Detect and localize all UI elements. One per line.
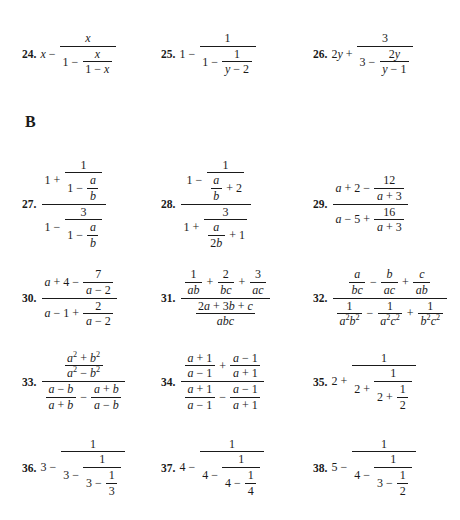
numeral: 1 [238, 453, 244, 466]
expr-group: b [213, 190, 219, 203]
operator: − [193, 399, 206, 412]
fraction-denominator: 1−1y−2 [200, 47, 256, 76]
power-term: b2 [90, 367, 100, 380]
fraction-numerator: a2+b2a2−b2 [61, 352, 107, 381]
exercise-expression: abc−bac+cab1a2b2−1a2c2+1b2c2 [331, 268, 448, 327]
operator: + [100, 383, 113, 396]
fraction: a+1a−1 [185, 352, 215, 380]
numeral: 2 [243, 63, 249, 76]
operator: + [50, 174, 63, 187]
operator: + [77, 352, 90, 365]
expr-group: abc−bac+cab [348, 268, 432, 296]
operator: − [185, 48, 198, 61]
fraction-numerator: 3 [220, 206, 231, 220]
power-term: c2 [431, 315, 440, 328]
fraction-numerator: 1 [385, 300, 396, 314]
expr-group: 2y [389, 48, 400, 61]
fraction-denominator: 3 [106, 484, 117, 498]
expr-group: a+b [94, 383, 119, 396]
numeral: 2 [400, 399, 406, 412]
fraction-numerator: a [87, 221, 98, 235]
exercise-row: 30.a+4−7a−2a−1+2a−231.1ab+2bc+3ac2a+3b+c… [0, 258, 460, 338]
numeral: 3 [223, 206, 229, 219]
exercise-number: 30. [22, 292, 36, 304]
variable: b [113, 399, 119, 412]
fraction-numerator: 3 [379, 32, 390, 46]
expr-group: a [213, 221, 219, 234]
expr-group: 1−1y−2 [202, 48, 253, 76]
exercise-number: 36. [22, 462, 36, 474]
fraction: 12+12+12 [352, 352, 417, 411]
operator: + [69, 307, 82, 320]
expr-group: 1 [90, 438, 96, 451]
numeral: 1 [239, 229, 245, 242]
operator: − [91, 63, 104, 76]
expr-group: 4−14−14−14 [179, 438, 265, 497]
expr-group: 1 [390, 453, 396, 466]
exercise-number: 24. [22, 48, 36, 60]
exercise-expression: 1−1ab+21+3a2b+1 [179, 159, 253, 250]
power-term: c2 [390, 315, 399, 328]
expr-group: a+3 [377, 190, 402, 203]
operator: − [69, 469, 82, 482]
fraction: 13 [106, 469, 117, 497]
exercise-cell: 25.1−11−1y−2 [155, 32, 305, 76]
fraction: 12+12 [374, 367, 412, 411]
expr-group: a+3 [377, 221, 402, 234]
expr-group: 1 [381, 352, 387, 365]
expr-group: a [213, 174, 219, 187]
fraction-denominator: ac [250, 283, 266, 297]
numeral: 1 [390, 453, 396, 466]
exercise-cell: 27.1+11−ab1−31−ab [0, 159, 155, 250]
numeral: 3 [396, 221, 402, 234]
fraction-denominator: 4−14 [222, 468, 260, 497]
fraction-denominator: a+b [46, 398, 76, 412]
expr-group: y−1 [382, 63, 406, 76]
numeral: 2 [223, 268, 229, 281]
exponent: 2 [436, 313, 440, 322]
expr-group: 1 [99, 453, 105, 466]
expr-group: 3 [223, 206, 229, 219]
fraction: a2b [208, 221, 225, 249]
exercise-row: 33.a2+b2a2−b2a−ba+b−a+ba−b34.a+1a−1+a−1a… [0, 338, 460, 425]
variable: abc [217, 315, 234, 328]
fraction: a−1a+1 [230, 383, 260, 411]
fraction: 16a+3 [374, 206, 404, 234]
expr-group: 3 [81, 206, 87, 219]
variable: a [354, 268, 360, 281]
numeral: 1 [252, 399, 258, 412]
fraction-denominator: b [211, 189, 222, 203]
operator: − [193, 367, 206, 380]
expr-group: x [95, 48, 100, 61]
variable: ab [187, 284, 199, 297]
numeral: 1 [381, 438, 387, 451]
fraction-numerator: 1 [220, 159, 231, 173]
expr-group: 1−x [85, 63, 109, 76]
numeral: 1 [206, 367, 212, 380]
fraction-numerator: a−b [46, 383, 76, 397]
operator: − [92, 284, 105, 297]
expr-group: a+1 [187, 352, 212, 365]
exponent: 2 [396, 313, 400, 322]
fraction-denominator: ab+2 [207, 173, 245, 202]
expr-group: 2 [223, 268, 229, 281]
numeral: 3 [255, 268, 261, 281]
exercise-expression: 3−13−13−13 [40, 438, 126, 497]
variable: c [419, 268, 424, 281]
exercise-expression: 5−14−13−12 [331, 438, 417, 497]
operator: + [189, 221, 202, 234]
fraction: 14 [245, 469, 256, 497]
expr-group: a+1 [187, 383, 212, 396]
variable: b [386, 268, 392, 281]
fraction-denominator: a2b+1 [204, 220, 248, 249]
expr-group: 4−14−14 [202, 453, 262, 497]
operator: + [360, 213, 373, 226]
operator: + [383, 190, 396, 203]
fraction: 2a+3b+cabc [196, 300, 256, 328]
variable: c [248, 300, 253, 313]
expr-group: 1−1ab+2 [186, 159, 246, 203]
fraction-numerator: 1−1ab+2 [184, 159, 249, 204]
expr-group: 2+12+12+12 [331, 352, 417, 411]
variable: a [90, 174, 96, 187]
fraction: 12 [397, 383, 408, 411]
